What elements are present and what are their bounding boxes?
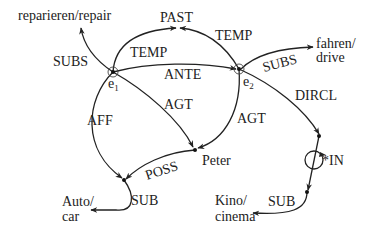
edge-label-e2-agt: AGT — [237, 111, 266, 126]
node-dircl-end[interactable] — [317, 134, 321, 138]
semantic-network-diagram: reparieren/repair PAST fahren/ drive e1 … — [0, 0, 374, 241]
label-kino-1: Kino/ — [215, 193, 247, 208]
node-peter[interactable] — [193, 148, 197, 152]
edge-label-dircl: DIRCL — [295, 88, 337, 103]
node-e1[interactable] — [111, 70, 115, 74]
edge-label-ante: ANTE — [164, 67, 201, 82]
edge-label-aff: AFF — [87, 113, 113, 128]
label-drive-2: drive — [316, 50, 345, 65]
edge-label-kino-sub: SUB — [268, 194, 295, 209]
label-e2: e2 — [243, 74, 254, 91]
edge-e2-agt-peter — [198, 69, 239, 148]
edge-label-e1-temp: TEMP — [130, 45, 168, 60]
label-repair: reparieren/repair — [18, 8, 112, 23]
label-e1: e1 — [108, 76, 119, 93]
label-auto-1: Auto/ — [62, 194, 94, 209]
node-e2[interactable] — [237, 67, 241, 71]
edge-auto-sub — [91, 180, 131, 210]
edge-in-line — [308, 136, 319, 190]
label-kino-2: cinema — [215, 209, 256, 224]
edge-label-poss: POSS — [143, 158, 179, 183]
edge-label-e2-subs: SUBS — [261, 51, 299, 75]
node-auto[interactable] — [122, 178, 126, 182]
edge-label-auto-sub: SUB — [131, 193, 158, 208]
node-in-lower[interactable] — [305, 190, 309, 194]
edge-label-in: *IN — [322, 153, 344, 168]
edge-label-e1-subs: SUBS — [53, 54, 88, 69]
label-drive-1: fahren/ — [316, 36, 356, 51]
label-past: PAST — [160, 10, 193, 25]
label-auto-2: car — [62, 209, 79, 224]
edge-label-e2-temp: TEMP — [215, 28, 253, 43]
edge-label-e1-agt: AGT — [164, 97, 193, 112]
label-peter: Peter — [202, 153, 231, 168]
